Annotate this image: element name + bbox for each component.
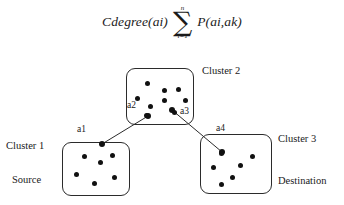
cluster-2-member-dot <box>144 113 149 118</box>
cluster-2-member-dot <box>135 96 140 101</box>
cluster-3-member-dot <box>219 182 224 187</box>
node-a1[interactable] <box>99 141 105 147</box>
cluster-1-role-label: Source <box>12 174 41 185</box>
cluster-3-title: Cluster 3 <box>278 133 316 144</box>
node-a1-label: a1 <box>77 124 86 134</box>
cluster-1-title: Cluster 1 <box>6 140 44 151</box>
cluster-1-member-dot <box>98 160 103 165</box>
cluster-2-title: Cluster 2 <box>202 65 240 76</box>
cluster-3-member-dot <box>211 165 216 170</box>
cluster-3-member-dot <box>230 175 235 180</box>
cluster-1-member-dot <box>74 172 79 177</box>
cluster-1-member-dot <box>112 175 117 180</box>
cluster-2-member-dot <box>145 81 150 86</box>
cluster-3-member-dot <box>238 163 243 168</box>
cluster-1-member-dot <box>82 154 87 159</box>
cluster-2-member-dot <box>172 110 177 115</box>
cluster-2-member-dot <box>176 87 181 92</box>
cluster-2-member-dot <box>162 88 167 93</box>
cluster-2-member-dot <box>183 98 188 103</box>
cluster-3-box[interactable] <box>200 134 272 194</box>
node-a4-label: a4 <box>216 123 225 133</box>
diagram-canvas: Cdegree(ai) n ∑ i=1 P(ai,ak) Cluster 1 S… <box>0 0 344 205</box>
cluster-2-member-dot <box>148 104 153 109</box>
cluster-1-box[interactable] <box>62 142 130 196</box>
cluster-3-member-dot <box>219 151 224 156</box>
cluster-3-member-dot <box>250 154 255 159</box>
cluster-2-member-dot <box>162 98 167 103</box>
node-a3-label: a3 <box>180 106 189 116</box>
cluster-3-role-label: Destination <box>278 175 326 186</box>
node-a2-label: a2 <box>127 100 136 110</box>
cluster-1-member-dot <box>92 181 97 186</box>
cluster-1-member-dot <box>110 153 115 158</box>
